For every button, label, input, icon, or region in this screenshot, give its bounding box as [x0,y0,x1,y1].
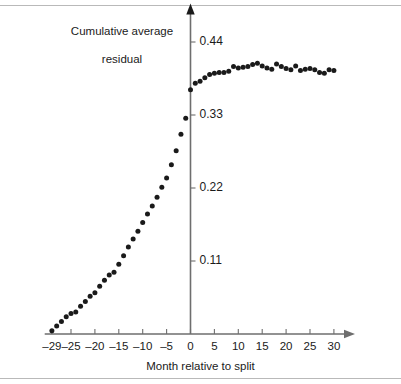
axis-lines [45,3,355,338]
data-point [279,64,284,69]
data-point [202,75,207,80]
data-point [131,237,136,242]
data-point [193,81,198,86]
x-tick-label-2: –20 [85,340,104,352]
data-point [212,71,217,76]
data-point [69,311,74,316]
x-tick-label-6: 0 [187,340,193,352]
data-point [78,304,83,309]
data-point [241,65,246,70]
data-point [217,70,222,75]
data-point [97,284,102,289]
data-point [312,67,317,72]
data-point [221,70,226,75]
data-point [169,162,174,167]
data-point [284,66,289,71]
data-point [135,229,140,234]
data-point [231,64,236,69]
x-tick-label-0: –29 [42,340,61,352]
data-point [207,72,212,77]
data-point [140,220,145,225]
y-tick-label-2: 0.33 [200,107,223,121]
data-point [226,69,231,74]
data-point [274,61,279,66]
x-tick-label-5: –5 [160,340,173,352]
data-point [255,61,260,66]
data-point [83,299,88,304]
data-point [126,245,131,250]
data-point [159,185,164,190]
x-tick-label-7: 5 [211,340,217,352]
data-point [150,203,155,208]
x-tick-label-12: 30 [327,340,340,352]
data-point [245,64,250,69]
data-point [155,195,160,200]
data-point [178,132,183,137]
data-point [250,62,255,67]
data-point [145,211,150,216]
data-point [102,278,107,283]
data-point [269,67,274,72]
data-point [174,148,179,153]
data-point [327,67,332,72]
data-point [64,314,69,319]
data-point [293,63,298,68]
data-point [73,310,78,315]
data-point [303,67,308,72]
data-point [198,79,203,84]
x-axis-arrowhead [344,330,355,338]
data-point [183,116,188,121]
data-point [88,294,93,299]
data-point [260,63,265,68]
data-point [322,71,327,76]
x-tick-label-10: 20 [280,340,293,352]
y-tick-label-0: 0.11 [200,253,222,267]
data-point [121,253,126,258]
data-point [107,272,112,277]
data-point [188,87,193,92]
data-point [59,319,64,324]
y-tick-label-1: 0.22 [200,180,223,194]
y-tick-label-3: 0.44 [200,34,223,48]
data-point [236,65,241,70]
data-point [308,66,313,71]
axis-ticks [52,42,334,334]
data-point [331,68,336,73]
data-point [264,65,269,70]
data-point [317,70,322,75]
x-tick-label-4: –10 [133,340,152,352]
x-axis-title: Month relative to split [0,360,401,372]
data-point [288,67,293,72]
y-axis-arrowhead [186,3,194,14]
data-point [112,270,117,275]
data-point [164,176,169,181]
data-point [49,328,54,333]
data-point [116,262,121,267]
data-point [92,290,97,295]
data-point [54,324,59,329]
x-tick-label-11: 25 [304,340,317,352]
x-tick-label-8: 10 [232,340,245,352]
data-points [49,61,336,333]
data-point [298,68,303,73]
chart-figure: Cumulative average residual 0.110.220.33… [0,0,401,384]
x-tick-label-9: 15 [256,340,269,352]
x-tick-label-1: –25 [61,340,80,352]
x-tick-label-3: –15 [109,340,128,352]
